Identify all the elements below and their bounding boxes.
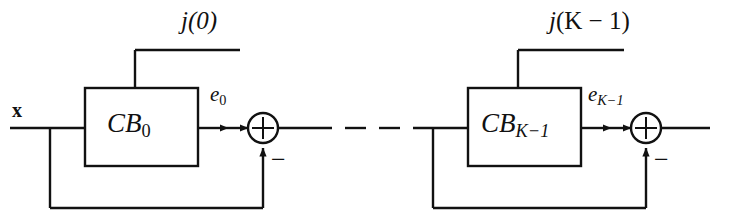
control-label-K-1-prefix: j xyxy=(549,7,556,34)
control-label-0-text: j(0) xyxy=(181,7,217,34)
error-label-0-sub: 0 xyxy=(219,92,226,108)
error-label-K-1-base: e xyxy=(588,82,597,106)
block-label-K-1: CBK−1 xyxy=(481,110,549,141)
feedback-sign-0: − xyxy=(271,147,286,173)
block-label-K-1-sub: K−1 xyxy=(516,121,550,141)
control-label-0: j(0) xyxy=(181,8,217,33)
error-label-0-base: e xyxy=(210,82,219,106)
input-signal-label: x xyxy=(12,100,22,120)
feedback-sign-K-1: − xyxy=(654,147,669,173)
error-label-K-1-sub: K−1 xyxy=(597,92,623,108)
block-label-K-1-base: CB xyxy=(481,108,516,138)
block-label-0-sub: 0 xyxy=(142,121,151,141)
block-diagram-figure: x j(0) CB0 e0 − j(K − 1) CBK−1 eK−1 − xyxy=(0,0,730,222)
block-label-0-base: CB xyxy=(107,108,142,138)
control-label-K-1-arg: (K − 1) xyxy=(556,7,630,34)
error-label-K-1: eK−1 xyxy=(588,84,624,107)
error-label-0: e0 xyxy=(210,84,226,107)
block-label-0: CB0 xyxy=(107,110,151,141)
control-label-K-1: j(K − 1) xyxy=(549,8,630,33)
